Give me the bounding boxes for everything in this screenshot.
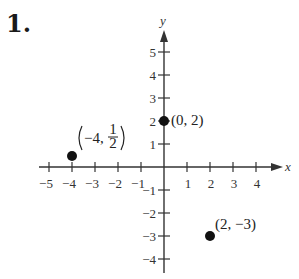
coordinate-plane: x y −5 −4 −3 −2 −1 1 2 3 4 [0,0,299,279]
y-tick-labels: 5 4 3 2 1 −1 −2 −3 −4 [142,45,156,267]
point-label-neg4-half: −4, 1 2 [79,121,124,151]
y-tick-label: 4 [150,68,157,83]
y-axis-arrow-icon [160,30,168,42]
x-tick-label: 3 [231,176,238,191]
x-tick-label: −4 [62,176,76,191]
svg-text:−4,: −4, [84,130,104,146]
y-tick-label: 2 [150,114,157,129]
y-tick-label: 3 [150,91,157,106]
x-tick-label: 4 [254,176,261,191]
x-axis-arrow-icon [271,163,283,171]
x-tick-label: −2 [108,176,122,191]
point-label-0-2: (0, 2) [171,112,204,129]
y-tick-label: 5 [150,45,157,60]
point-label-2-neg3: (2, −3) [215,216,256,233]
point-2-neg3 [205,231,215,241]
y-axis-label: y [158,13,166,28]
y-tick-label: −1 [142,183,156,198]
y-tick-label: −2 [142,206,156,221]
x-tick-label: −3 [85,176,99,191]
y-tick-label: 1 [150,137,157,152]
x-tick-label: 2 [208,176,215,191]
x-axis-label: x [284,159,291,174]
y-tick-label: −4 [142,252,156,267]
x-tick-label: 1 [185,176,192,191]
point-0-2 [159,116,169,126]
y-tick-label: −3 [142,229,156,244]
svg-text:2: 2 [109,135,117,151]
x-tick-label: −5 [39,176,53,191]
point-neg4-half [67,151,77,161]
